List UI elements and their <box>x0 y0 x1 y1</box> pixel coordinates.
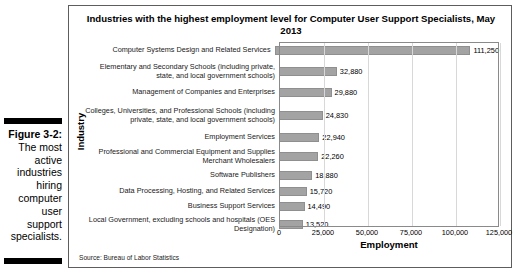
gridline <box>500 43 501 226</box>
category-label: Software Publishers <box>83 171 279 180</box>
bar <box>279 171 312 180</box>
x-tick-label: 75,000 <box>400 228 422 237</box>
bar-zone: 22,940 <box>279 130 499 145</box>
chart-title: Industries with the highest employment l… <box>79 13 503 36</box>
source-note: Source: Bureau of Labor Statistics <box>79 254 179 261</box>
chart-panel: Industries with the highest employment l… <box>68 5 512 268</box>
bar-value-label: 14,490 <box>308 202 331 211</box>
bar-row: Data Processing, Hosting, and Related Se… <box>83 183 499 199</box>
x-tick-label: 125,000 <box>486 228 512 237</box>
category-label: Elementary and Secondary Schools (includ… <box>83 63 279 80</box>
category-label: Data Processing, Hosting, and Related Se… <box>83 187 279 196</box>
bar-row: Colleges, Universities, and Professional… <box>83 101 499 130</box>
bar-zone: 14,490 <box>279 199 499 214</box>
bar <box>279 202 305 211</box>
bar-row: Software Publishers18,880 <box>83 168 499 183</box>
bar-row: Professional and Commercial Equipment an… <box>83 145 499 168</box>
bar-zone: 29,880 <box>279 84 499 101</box>
figure-caption-block: Figure 3-2: The most active industries h… <box>4 0 62 276</box>
bar-zone: 24,830 <box>279 101 499 130</box>
bar-row: Elementary and Secondary Schools (includ… <box>83 59 499 84</box>
bar-zone: 111,250 <box>275 42 499 59</box>
bar-value-label: 111,250 <box>473 46 499 55</box>
bar-value-label: 22,940 <box>322 133 345 142</box>
bar-value-label: 22,260 <box>321 152 344 161</box>
figure-caption-text: Figure 3-2: The most active industries h… <box>4 128 62 243</box>
bar-row: Business Support Services14,490 <box>83 199 499 214</box>
figure-caption-body: The most active industries hiring comput… <box>4 141 62 243</box>
bar-row: Computer Systems Design and Related Serv… <box>83 42 499 59</box>
bar-zone: 32,880 <box>279 59 499 84</box>
category-label: Colleges, Universities, and Professional… <box>83 107 279 124</box>
bar <box>279 67 337 76</box>
bar-row: Employment Services22,940 <box>83 130 499 145</box>
bar <box>279 133 319 142</box>
category-label: Local Government, excluding schools and … <box>83 216 279 233</box>
bar <box>279 152 318 161</box>
bar-row: Management of Companies and Enterprises2… <box>83 84 499 101</box>
bar-zone: 22,260 <box>279 145 499 168</box>
x-axis-title: Employment <box>279 239 499 250</box>
x-tick-label: 100,000 <box>442 228 468 237</box>
bar-value-label: 24,830 <box>326 111 349 120</box>
caption-rule-top <box>4 118 62 124</box>
bar <box>279 111 323 120</box>
x-tick-label: 25,000 <box>312 228 334 237</box>
bar-rows: Computer Systems Design and Related Serv… <box>83 42 499 227</box>
bar-value-label: 32,880 <box>340 67 363 76</box>
bar-zone: 18,880 <box>279 168 499 183</box>
bar-zone: 15,720 <box>279 183 499 199</box>
caption-rule-bottom <box>4 258 62 264</box>
bar <box>279 88 332 97</box>
bar <box>279 187 307 196</box>
x-tick-label: 50,000 <box>356 228 378 237</box>
category-label: Employment Services <box>83 133 279 142</box>
figure-number: Figure 3-2: <box>4 128 62 141</box>
bar-value-label: 18,880 <box>315 171 338 180</box>
category-label: Computer Systems Design and Related Serv… <box>83 46 275 55</box>
category-label: Management of Companies and Enterprises <box>83 88 279 97</box>
bar-value-label: 15,720 <box>310 187 333 196</box>
category-label: Professional and Commercial Equipment an… <box>83 148 279 165</box>
category-label: Business Support Services <box>83 202 279 211</box>
x-tick-label: 0 <box>277 228 281 237</box>
bar-value-label: 29,880 <box>335 88 358 97</box>
bar <box>275 46 471 55</box>
